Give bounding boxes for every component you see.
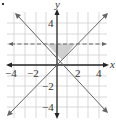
x-tick-2: 2 [75, 67, 81, 79]
y-axis-label: y [54, 0, 60, 10]
coordinate-graph: y x −4 −2 2 4 4 −2 −4 [0, 0, 116, 139]
y-tick-neg2: −2 [42, 80, 54, 92]
y-tick-4: 4 [48, 17, 54, 29]
x-tick-4: 4 [96, 67, 102, 79]
line-y-equals-neg-x-plus-1 [15, 13, 108, 113]
y-axis [55, 9, 60, 119]
x-tick-neg4: −4 [5, 67, 17, 79]
x-axis-label: x [109, 58, 115, 70]
x-tick-neg2: −2 [27, 67, 39, 79]
y-tick-neg4: −4 [42, 101, 54, 113]
